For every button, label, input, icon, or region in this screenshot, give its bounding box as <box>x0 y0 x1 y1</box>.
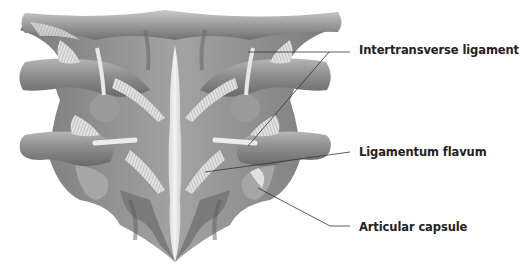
label-intertransverse-ligament: Intertransverse ligament <box>359 43 519 57</box>
articular-process-left-upper <box>90 94 120 122</box>
ligament-band-right-low <box>215 140 255 143</box>
label-ligamentum-flavum: Ligamentum flavum <box>359 145 487 159</box>
articular-process-right-upper <box>230 94 260 122</box>
transverse-process-left-low <box>20 132 114 167</box>
ligament-band-left-low <box>95 140 135 143</box>
label-articular-capsule: Articular capsule <box>359 220 467 234</box>
